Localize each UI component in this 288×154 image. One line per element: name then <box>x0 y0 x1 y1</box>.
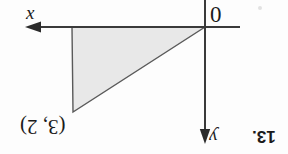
x-axis-arrowhead-icon <box>25 22 41 33</box>
figure-container: 0 x y (3, 2) 13. <box>0 0 288 154</box>
scan-artifact <box>258 6 262 10</box>
y-axis-label: y <box>209 128 217 147</box>
shaded-right-triangle <box>72 27 205 112</box>
vertex-coordinate-label: (3, 2) <box>20 116 66 137</box>
x-axis-label: x <box>26 3 34 22</box>
origin-label: 0 <box>210 3 222 26</box>
problem-number-label: 13. <box>252 128 276 145</box>
